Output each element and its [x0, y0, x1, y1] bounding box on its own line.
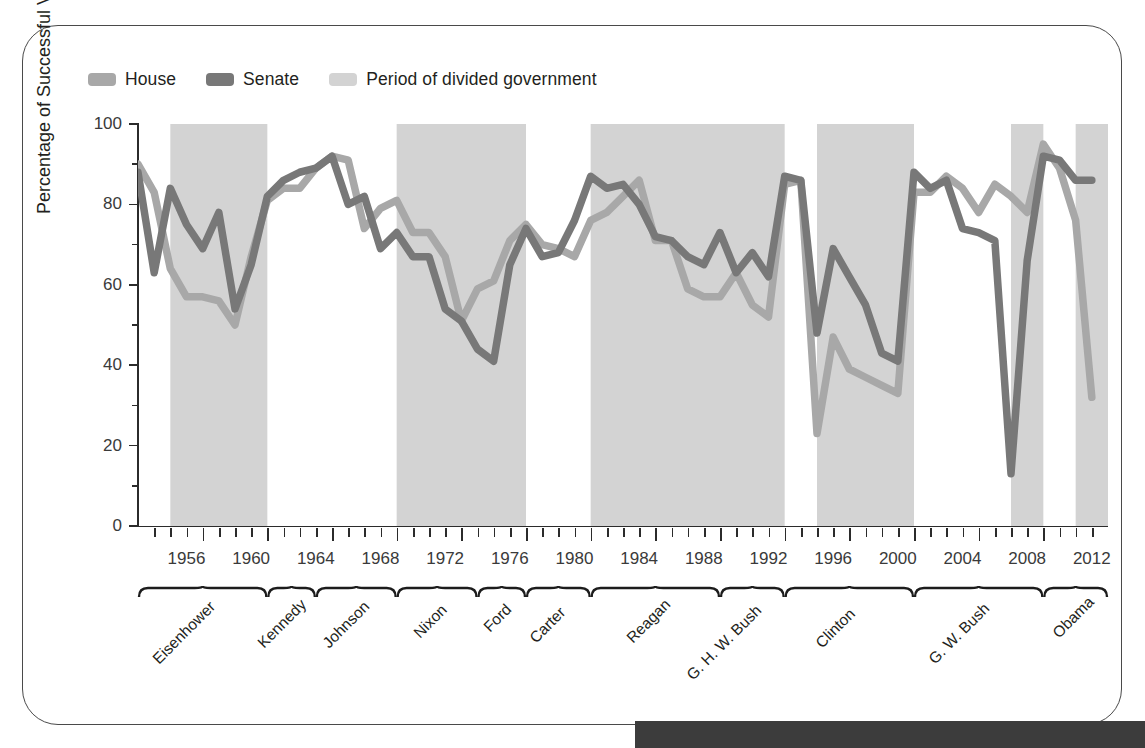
chart-series-svg: [138, 124, 1108, 526]
x-tick: [300, 528, 302, 537]
legend-swatch-senate: [206, 73, 234, 86]
legend-swatch-house: [88, 73, 116, 86]
legend-item-house: House: [88, 69, 176, 90]
y-tick-label: 20: [72, 437, 122, 454]
y-tick-major: [129, 445, 138, 447]
x-tick: [785, 528, 787, 541]
x-tick: [1076, 528, 1078, 537]
x-tick: [429, 528, 431, 537]
x-axis-year-label: 2004: [944, 549, 982, 569]
x-tick: [510, 528, 512, 537]
x-tick: [397, 528, 399, 541]
president-term-brace: [479, 586, 526, 597]
president-term-brace: [527, 586, 590, 597]
x-tick: [187, 528, 189, 537]
decorative-bottom-bar: [635, 721, 1145, 748]
x-axis-year-label: 2008: [1008, 549, 1046, 569]
president-term-brace: [317, 586, 396, 597]
x-axis-year-label: 1972: [426, 549, 464, 569]
x-tick: [203, 528, 205, 541]
x-axis-year-label: 1992: [750, 549, 788, 569]
x-tick: [445, 528, 447, 537]
x-tick: [655, 528, 657, 541]
x-axis-year-label: 1956: [168, 549, 206, 569]
legend-label-senate: Senate: [243, 69, 299, 90]
x-tick: [526, 528, 528, 541]
y-tick-major: [129, 364, 138, 366]
x-tick: [348, 528, 350, 537]
divided-government-band: [170, 124, 267, 526]
x-axis-year-label: 1996: [814, 549, 852, 569]
x-tick: [930, 528, 932, 537]
y-tick-major: [129, 284, 138, 286]
president-term-brace: [592, 586, 719, 597]
x-tick: [898, 528, 900, 537]
x-tick: [946, 528, 948, 537]
y-tick-major: [129, 525, 138, 527]
legend-label-house: House: [125, 69, 176, 90]
x-tick: [995, 528, 997, 537]
president-label-carter: Carter: [526, 603, 569, 646]
president-label-obama: Obama: [1049, 593, 1098, 642]
y-tick-minor: [132, 324, 138, 326]
x-tick: [381, 528, 383, 537]
y-tick-label: 0: [72, 517, 122, 534]
y-axis-title: Percentage of Successful Votes: [34, 0, 55, 214]
x-tick: [769, 528, 771, 537]
legend-item-divided-government: Period of divided government: [329, 69, 596, 90]
chart-plot-area: Percentage of Successful Votes 020406080…: [138, 124, 1108, 526]
x-tick: [720, 528, 722, 541]
president-label-g-h-w-bush: G. H. W. Bush: [683, 602, 765, 684]
x-tick: [316, 528, 318, 537]
x-tick: [672, 528, 674, 537]
x-tick: [882, 528, 884, 537]
x-tick: [284, 528, 286, 537]
y-tick-minor: [132, 405, 138, 407]
president-term-brace: [139, 586, 266, 597]
x-tick: [267, 528, 269, 541]
president-term-brace: [786, 586, 913, 597]
x-tick: [591, 528, 593, 541]
x-axis-year-label: 2000: [879, 549, 917, 569]
x-tick: [461, 528, 463, 541]
x-tick: [494, 528, 496, 537]
x-axis-year-label: 1964: [297, 549, 335, 569]
x-axis-year-label: 1960: [232, 549, 270, 569]
divided-government-band: [1076, 124, 1108, 526]
president-label-nixon: Nixon: [410, 601, 451, 642]
x-tick: [801, 528, 803, 537]
x-tick: [1027, 528, 1029, 537]
x-tick: [413, 528, 415, 537]
president-label-clinton: Clinton: [812, 605, 859, 652]
y-tick-label: 80: [72, 195, 122, 212]
x-tick: [623, 528, 625, 537]
president-term-brace: [1044, 586, 1107, 597]
x-tick: [736, 528, 738, 537]
president-label-g-w-bush: G. W. Bush: [925, 600, 993, 668]
x-tick: [607, 528, 609, 537]
x-axis-year-label: 1968: [362, 549, 400, 569]
president-label-eisenhower: Eisenhower: [149, 598, 219, 668]
legend-label-divided-government: Period of divided government: [366, 69, 596, 90]
x-tick: [478, 528, 480, 537]
y-tick-label: 40: [72, 356, 122, 373]
x-tick: [704, 528, 706, 537]
x-tick: [558, 528, 560, 537]
x-axis-year-label: 1976: [491, 549, 529, 569]
legend-swatch-divided-government: [329, 73, 357, 86]
y-tick-label: 100: [72, 115, 122, 132]
x-tick: [914, 528, 916, 541]
president-term-brace: [398, 586, 477, 597]
x-tick: [688, 528, 690, 537]
x-tick: [219, 528, 221, 537]
x-tick: [1011, 528, 1013, 537]
x-axis-year-label: 1984: [620, 549, 658, 569]
president-term-brace: [915, 586, 1042, 597]
y-tick-major: [129, 204, 138, 206]
president-term-brace: [721, 586, 784, 597]
x-tick: [979, 528, 981, 541]
x-tick: [542, 528, 544, 537]
x-tick: [1092, 528, 1094, 537]
legend-item-senate: Senate: [206, 69, 299, 90]
x-tick: [251, 528, 253, 537]
